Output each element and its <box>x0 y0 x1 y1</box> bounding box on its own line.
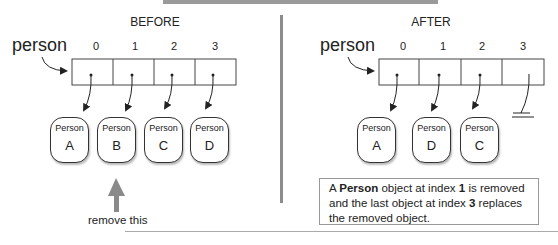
note-bold-class: Person <box>339 182 378 194</box>
note-text: object at index <box>378 182 459 194</box>
object-label: D <box>413 138 450 153</box>
after-person-object-a: Person A <box>357 117 396 163</box>
after-person-object-d: Person D <box>412 117 451 163</box>
explanation-note: A Person object at index 1 is removed an… <box>319 178 539 225</box>
object-class-label: Person <box>358 123 395 133</box>
object-class-label: Person <box>461 123 498 133</box>
object-class-label: Person <box>413 123 450 133</box>
object-label: C <box>461 138 498 153</box>
object-label: A <box>358 138 395 153</box>
note-text: A <box>329 182 339 194</box>
after-person-object-c: Person C <box>460 117 499 163</box>
